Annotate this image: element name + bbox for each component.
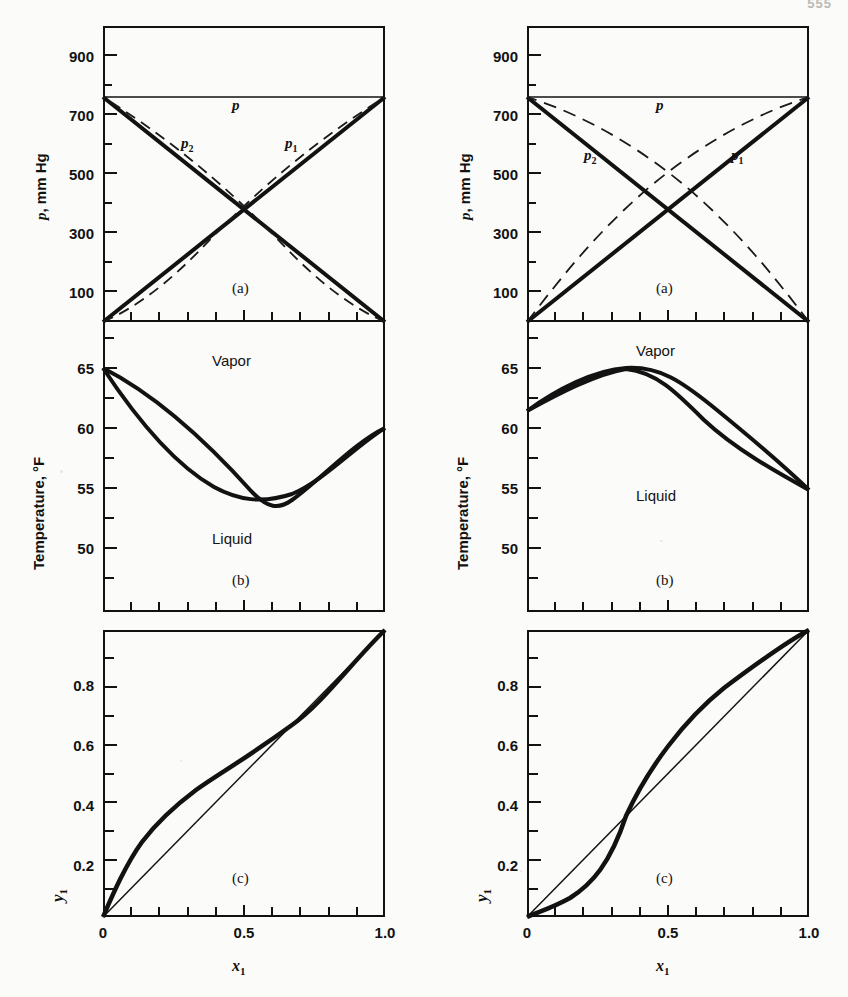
- axis-title-x1-left: x1: [232, 957, 246, 977]
- xtick-1.0-left: 1.0: [365, 924, 405, 941]
- plot-a-left-svg: [0, 0, 424, 340]
- x-axis-ticks-b-right: [555, 600, 781, 612]
- y-axis-ticks-b-right: [527, 338, 541, 578]
- caption-b-left: (b): [232, 572, 250, 589]
- panel-c-yx-right: y1 0.8 0.6 0.4 0.2: [424, 612, 848, 997]
- axis-title-x1-right: x1: [656, 957, 670, 977]
- region-label-vapor-left: Vapor: [212, 352, 251, 369]
- region-label-liquid-right: Liquid: [636, 487, 676, 504]
- label-p-total-right: p: [656, 97, 664, 114]
- figure-page: 555 p, mm Hg 900 700 500 300 100: [0, 0, 848, 997]
- label-p1-left: p1: [285, 135, 298, 154]
- panel-a-pressure-left: p, mm Hg 900 700 500 300 100: [0, 0, 424, 340]
- y-axis-ticks-a-right: [527, 55, 541, 291]
- series-dew-point-left: [103, 368, 385, 506]
- plot-a-right-svg: [424, 0, 848, 340]
- y-axis-ticks-c-left: [103, 658, 117, 889]
- scan-speck: [180, 760, 182, 762]
- xtick-1.0-right: 1.0: [789, 924, 829, 941]
- xtick-0-right: 0: [507, 924, 547, 941]
- region-label-vapor-right: Vapor: [636, 342, 675, 359]
- plot-c-left-svg: [0, 612, 424, 997]
- x-axis-ticks-a-right: [555, 310, 781, 322]
- region-label-liquid-left: Liquid: [212, 530, 252, 547]
- y-axis-ticks-a-left: [103, 55, 117, 291]
- panel-c-yx-left: y1 0.8 0.6 0.4 0.2: [0, 612, 424, 997]
- x-axis-ticks-c-left: [131, 905, 357, 917]
- x-axis-ticks-b-left: [131, 600, 357, 612]
- series-bubble-point-left: [103, 368, 385, 500]
- scan-speck: [290, 160, 292, 162]
- caption-a-right: (a): [656, 280, 673, 297]
- panel-b-temperature-right: Temperature, °F 65 60 55 50: [424, 322, 848, 622]
- y-axis-ticks-c-right: [527, 658, 541, 889]
- panel-b-temperature-left: Temperature, °F 65 60 55 50: [0, 322, 424, 622]
- x-axis-ticks-a-left: [131, 310, 357, 322]
- plot-b-right-svg: [424, 322, 848, 622]
- series-bubble-point-right: [527, 369, 809, 490]
- right-figure-column: p, mm Hg 900 700 500 300 100: [424, 0, 848, 997]
- label-p-total-left: p: [232, 97, 240, 114]
- label-p2-right: p2: [584, 147, 597, 166]
- scan-speck: [60, 470, 63, 473]
- scan-speck: [520, 870, 522, 872]
- caption-c-left: (c): [232, 870, 249, 887]
- xtick-0.5-left: 0.5: [224, 924, 264, 941]
- label-p1-right: p1: [731, 147, 744, 166]
- x-axis-ticks-c-right: [555, 905, 781, 917]
- caption-a-left: (a): [232, 280, 249, 297]
- left-figure-column: p, mm Hg 900 700 500 300 100: [0, 0, 424, 997]
- plot-c-right-svg: [424, 612, 848, 997]
- xtick-0-left: 0: [83, 924, 123, 941]
- caption-c-right: (c): [656, 870, 673, 887]
- xtick-0.5-right: 0.5: [648, 924, 688, 941]
- label-p2-left: p2: [181, 135, 194, 154]
- caption-b-right: (b): [656, 572, 674, 589]
- panel-a-pressure-right: p, mm Hg 900 700 500 300 100: [424, 0, 848, 340]
- scan-speck: [660, 540, 663, 542]
